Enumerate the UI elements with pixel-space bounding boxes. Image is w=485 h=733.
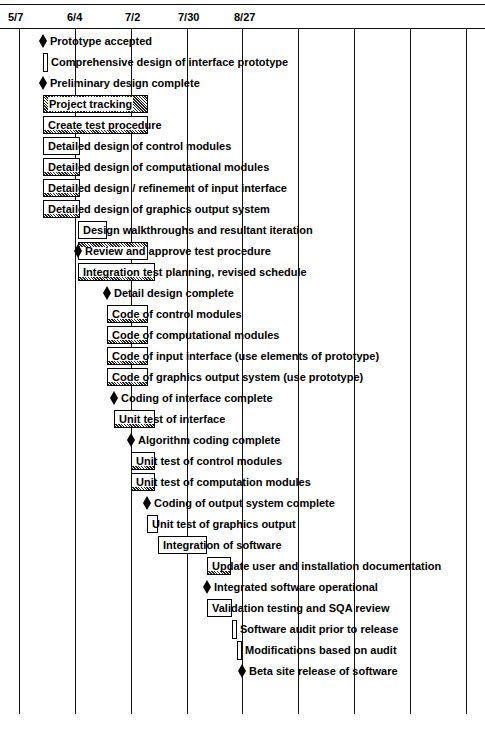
task-label: Update user and installation documentati… bbox=[212, 559, 441, 573]
task-label: Integration of software bbox=[163, 538, 282, 552]
task-label: Code of control modules bbox=[112, 307, 242, 321]
top-rule bbox=[0, 4, 485, 5]
task-label: Modifications based on audit bbox=[245, 643, 397, 657]
task-bar bbox=[43, 53, 48, 72]
milestone-row: Prototype accepted bbox=[0, 32, 485, 51]
date-header-7-2: 7/2 bbox=[125, 11, 140, 23]
milestone-diamond-icon bbox=[39, 76, 47, 90]
milestone-row: Coding of output system complete bbox=[0, 494, 485, 513]
task-label: Review and approve test procedure bbox=[85, 244, 271, 258]
task-label: Unit test of computation modules bbox=[136, 475, 311, 489]
task-row: Detailed design of control modules bbox=[0, 137, 485, 156]
milestone-row: Preliminary design complete bbox=[0, 74, 485, 93]
task-label: Integrated software operational bbox=[214, 580, 378, 594]
task-row: Design walkthroughs and resultant iterat… bbox=[0, 221, 485, 240]
date-header-8-27: 8/27 bbox=[234, 11, 255, 23]
task-row: Integration of software bbox=[0, 536, 485, 555]
task-label: Create test procedure bbox=[48, 118, 162, 132]
task-bar bbox=[237, 641, 242, 660]
task-row: Code of graphics output system (use prot… bbox=[0, 368, 485, 387]
task-row: Unit test of control modules bbox=[0, 452, 485, 471]
task-label: Detailed design of control modules bbox=[48, 139, 231, 153]
milestone-diamond-icon bbox=[74, 244, 82, 258]
task-row: Detailed design / refinement of input in… bbox=[0, 179, 485, 198]
task-label: Beta site release of software bbox=[249, 664, 398, 678]
milestone-row: Integrated software operational bbox=[0, 578, 485, 597]
task-row: Integration test planning, revised sched… bbox=[0, 263, 485, 282]
task-label: Project tracking bbox=[48, 97, 133, 111]
task-row: Unit test of graphics output bbox=[0, 515, 485, 534]
milestone-diamond-icon bbox=[143, 496, 151, 510]
milestone-diamond-icon bbox=[127, 433, 135, 447]
task-bar bbox=[232, 620, 237, 639]
task-row: Unit test of interface bbox=[0, 410, 485, 429]
task-row: Comprehensive design of interface protot… bbox=[0, 53, 485, 72]
date-header-7-30: 7/30 bbox=[178, 11, 199, 23]
task-row: Code of computational modules bbox=[0, 326, 485, 345]
task-row: Update user and installation documentati… bbox=[0, 557, 485, 576]
task-row: Unit test of computation modules bbox=[0, 473, 485, 492]
task-row: Validation testing and SQA review bbox=[0, 599, 485, 618]
task-label: Unit test of graphics output bbox=[152, 517, 296, 531]
task-label: Code of graphics output system (use prot… bbox=[112, 370, 363, 384]
task-label: Validation testing and SQA review bbox=[212, 601, 389, 615]
milestone-diamond-icon bbox=[110, 391, 118, 405]
task-label: Algorithm coding complete bbox=[138, 433, 280, 447]
task-row: Detailed design of computational modules bbox=[0, 158, 485, 177]
task-label: Coding of output system complete bbox=[154, 496, 335, 510]
date-header-6-4: 6/4 bbox=[67, 11, 82, 23]
task-label: Unit test of interface bbox=[119, 412, 225, 426]
task-label: Code of computational modules bbox=[112, 328, 279, 342]
date-header-5-7: 5/7 bbox=[8, 11, 23, 23]
task-row: Create test procedure bbox=[0, 116, 485, 135]
milestone-row: Beta site release of software bbox=[0, 662, 485, 681]
task-label: Coding of interface complete bbox=[121, 391, 273, 405]
milestone-diamond-icon bbox=[238, 664, 246, 678]
task-label: Detailed design / refinement of input in… bbox=[48, 181, 287, 195]
task-row: Project tracking bbox=[0, 95, 485, 114]
task-row: Code of control modules bbox=[0, 305, 485, 324]
milestone-diamond-icon bbox=[203, 580, 211, 594]
milestone-row: Detail design complete bbox=[0, 284, 485, 303]
task-row: Code of input interface (use elements of… bbox=[0, 347, 485, 366]
milestone-row: Algorithm coding complete bbox=[0, 431, 485, 450]
task-label: Detailed design of computational modules bbox=[48, 160, 269, 174]
task-label: Code of input interface (use elements of… bbox=[112, 349, 379, 363]
task-label: Prototype accepted bbox=[50, 34, 152, 48]
task-label: Comprehensive design of interface protot… bbox=[51, 55, 288, 69]
milestone-diamond-icon bbox=[39, 34, 47, 48]
task-label: Preliminary design complete bbox=[50, 76, 200, 90]
milestone-diamond-icon bbox=[103, 286, 111, 300]
milestone-row: Review and approve test procedure bbox=[0, 242, 485, 261]
task-label: Design walkthroughs and resultant iterat… bbox=[83, 223, 313, 237]
task-label: Software audit prior to release bbox=[240, 622, 398, 636]
milestone-row: Coding of interface complete bbox=[0, 389, 485, 408]
task-label: Integration test planning, revised sched… bbox=[83, 265, 307, 279]
task-label: Unit test of control modules bbox=[136, 454, 282, 468]
task-row: Modifications based on audit bbox=[0, 641, 485, 660]
task-row: Software audit prior to release bbox=[0, 620, 485, 639]
task-label: Detailed design of graphics output syste… bbox=[48, 202, 270, 216]
task-label: Detail design complete bbox=[114, 286, 234, 300]
task-row: Detailed design of graphics output syste… bbox=[0, 200, 485, 219]
